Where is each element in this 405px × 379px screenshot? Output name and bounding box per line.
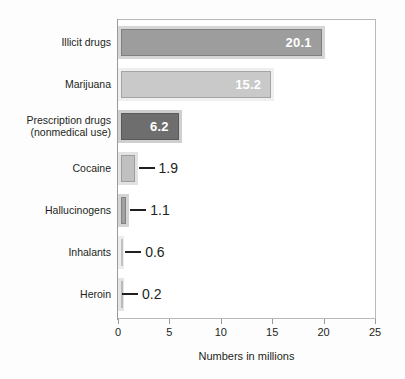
bar-callout: 1.9	[139, 147, 178, 189]
bar-callout: 0.6	[125, 231, 164, 273]
bar-illicit-drugs: 20.1	[118, 26, 325, 59]
bar-value-label: 0.6	[145, 244, 164, 260]
category-label-inhalants: Inhalants	[6, 231, 111, 273]
x-tick-mark	[272, 319, 273, 324]
x-axis-ticks: 0510152025	[117, 319, 376, 325]
bar-wrapper: 20.1	[118, 21, 325, 63]
category-label-prescription-drugs-nonmedical-use: Prescription drugs (nonmedical use)	[6, 105, 111, 147]
x-tick-label: 20	[317, 326, 329, 338]
leader-line	[130, 209, 146, 211]
bar-prescription-drugs-nonmedical-use: 6.2	[118, 110, 182, 143]
bar-marijuana: 15.2	[118, 68, 274, 101]
bar-callout: 0.2	[122, 273, 161, 315]
bar-value-label: 6.2	[150, 119, 179, 134]
bar-outer-edge	[121, 197, 126, 224]
bar-row: Illicit drugs20.1	[0, 21, 405, 63]
x-tick-mark	[221, 319, 222, 324]
bar-wrapper	[118, 147, 138, 189]
category-label-illicit-drugs: Illicit drugs	[6, 21, 111, 63]
bar-value-label: 20.1	[286, 35, 322, 50]
bar-row: Inhalants0.6	[0, 231, 405, 273]
bar-row: Cocaine1.9	[0, 147, 405, 189]
x-tick-mark	[375, 319, 376, 324]
bar-wrapper: 6.2	[118, 105, 182, 147]
x-axis-title: Numbers in millions	[117, 350, 376, 362]
bar-row: Prescription drugs (nonmedical use)6.2	[0, 105, 405, 147]
x-tick-label: 5	[166, 326, 172, 338]
x-tick-label: 10	[215, 326, 227, 338]
bar-row: Hallucinogens1.1	[0, 189, 405, 231]
x-tick-mark	[118, 319, 119, 324]
category-label-cocaine: Cocaine	[6, 147, 111, 189]
bar-outer-edge	[121, 155, 135, 182]
leader-line	[139, 167, 155, 169]
bar-value-label: 0.2	[142, 286, 161, 302]
bar-inhalants	[118, 236, 124, 269]
bar-value-label: 1.1	[150, 202, 169, 218]
bar-row: Heroin0.2	[0, 273, 405, 315]
bar-value-label: 15.2	[235, 77, 271, 92]
category-label-heroin: Heroin	[6, 273, 111, 315]
bar-cocaine	[118, 152, 138, 185]
x-tick-label: 25	[369, 326, 381, 338]
bar-wrapper	[118, 231, 124, 273]
bar-value-label: 1.9	[159, 160, 178, 176]
x-tick-label: 0	[115, 326, 121, 338]
x-tick-mark	[169, 319, 170, 324]
leader-line	[122, 293, 138, 295]
bar-hallucinogens	[118, 194, 129, 227]
category-label-hallucinogens: Hallucinogens	[6, 189, 111, 231]
bar-outer-edge	[121, 239, 123, 266]
x-tick-mark	[324, 319, 325, 324]
x-tick-label: 15	[266, 326, 278, 338]
bar-wrapper: 15.2	[118, 63, 274, 105]
leader-line	[125, 251, 141, 253]
bar-wrapper	[118, 189, 129, 231]
bar-callout: 1.1	[130, 189, 169, 231]
bar-chart-figure: Illicit drugs20.1Marijuana15.2Prescripti…	[0, 0, 405, 379]
bar-row: Marijuana15.2	[0, 63, 405, 105]
category-label-marijuana: Marijuana	[6, 63, 111, 105]
